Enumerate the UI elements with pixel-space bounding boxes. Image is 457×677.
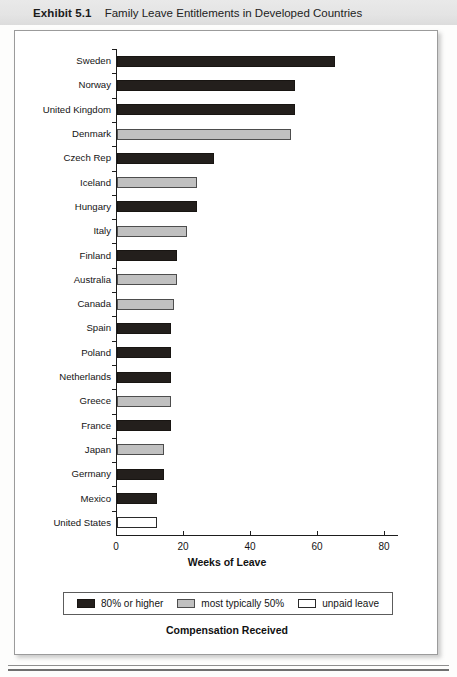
bar-mexico <box>117 493 157 504</box>
category-label: Germany <box>15 469 111 479</box>
legend-item-unpaid: unpaid leave <box>298 598 379 609</box>
x-tick-label: 60 <box>302 541 332 552</box>
category-label: Sweden <box>15 56 111 66</box>
x-tick-label: 40 <box>235 541 265 552</box>
x-tick-label: 0 <box>101 541 131 552</box>
x-axis-tick <box>183 531 184 535</box>
legend-swatch-mid <box>177 599 195 608</box>
category-label: Australia <box>15 275 111 285</box>
legend-item-high: 80% or higher <box>77 598 163 609</box>
legend-label: 80% or higher <box>101 598 163 609</box>
y-axis-tick <box>112 365 116 366</box>
category-label: Netherlands <box>15 372 111 382</box>
y-axis-tick <box>112 73 116 74</box>
bar-finland <box>117 250 177 261</box>
bar-poland <box>117 347 171 358</box>
category-label: United Kingdom <box>15 105 111 115</box>
page-rule-thin <box>8 665 449 666</box>
category-label: Mexico <box>15 494 111 504</box>
category-label: Iceland <box>15 178 111 188</box>
bar-norway <box>117 80 295 91</box>
legend-swatch-high <box>77 599 95 608</box>
category-label: Poland <box>15 348 111 358</box>
category-label: Finland <box>15 251 111 261</box>
y-axis-tick <box>112 268 116 269</box>
bar-germany <box>117 469 164 480</box>
legend-label: unpaid leave <box>322 598 379 609</box>
bar-hungary <box>117 201 197 212</box>
legend-item-mid: most typically 50% <box>177 598 284 609</box>
y-axis-tick <box>112 171 116 172</box>
bar-australia <box>117 274 177 285</box>
category-label: Czech Rep <box>15 153 111 163</box>
legend-swatch-unpaid <box>298 599 316 608</box>
bar-canada <box>117 299 174 310</box>
legend-label: most typically 50% <box>201 598 284 609</box>
category-label: France <box>15 421 111 431</box>
y-axis-tick <box>112 98 116 99</box>
x-axis-title: Weeks of Leave <box>15 556 439 568</box>
category-label: Norway <box>15 80 111 90</box>
y-axis-tick <box>112 414 116 415</box>
y-axis-tick <box>112 292 116 293</box>
bar-chart-plot: Weeks of Leave SwedenNorwayUnited Kingdo… <box>15 31 439 656</box>
category-label: Japan <box>15 445 111 455</box>
category-label: United States <box>15 518 111 528</box>
category-label: Canada <box>15 299 111 309</box>
bar-france <box>117 420 171 431</box>
bar-united-states <box>117 517 157 528</box>
bar-japan <box>117 444 164 455</box>
exhibit-number: Exhibit 5.1 <box>33 7 92 19</box>
exhibit-title: Family Leave Entitlements in Developed C… <box>105 7 363 19</box>
y-axis-tick <box>112 438 116 439</box>
figure-frame: Weeks of Leave SwedenNorwayUnited Kingdo… <box>14 30 438 655</box>
y-axis-tick <box>112 122 116 123</box>
x-axis-line <box>116 535 398 536</box>
y-axis-tick <box>112 462 116 463</box>
bar-czech-rep <box>117 153 214 164</box>
y-axis-tick <box>112 195 116 196</box>
page-rule-thick <box>8 669 449 671</box>
chart-legend: 80% or highermost typically 50%unpaid le… <box>63 592 393 615</box>
y-axis-tick <box>112 243 116 244</box>
category-label: Greece <box>15 396 111 406</box>
x-axis-tick <box>384 531 385 535</box>
y-axis-line <box>116 49 117 535</box>
bar-iceland <box>117 177 197 188</box>
x-tick-label: 80 <box>369 541 399 552</box>
category-label: Spain <box>15 323 111 333</box>
category-label: Italy <box>15 226 111 236</box>
bar-denmark <box>117 129 291 140</box>
y-axis-tick <box>112 486 116 487</box>
bar-united-kingdom <box>117 104 295 115</box>
y-axis-tick <box>112 341 116 342</box>
exhibit-page: Exhibit 5.1 Family Leave Entitlements in… <box>0 0 457 677</box>
category-label: Hungary <box>15 202 111 212</box>
category-label: Denmark <box>15 129 111 139</box>
y-axis-tick <box>112 316 116 317</box>
bar-spain <box>117 323 171 334</box>
x-axis-tick <box>116 531 117 535</box>
x-axis-tick <box>250 531 251 535</box>
x-axis-tick <box>317 531 318 535</box>
y-axis-tick <box>112 219 116 220</box>
y-axis-tick <box>112 511 116 512</box>
bar-netherlands <box>117 372 171 383</box>
x-tick-label: 20 <box>168 541 198 552</box>
exhibit-header: Exhibit 5.1 Family Leave Entitlements in… <box>0 0 457 25</box>
y-axis-tick <box>112 389 116 390</box>
bar-sweden <box>117 56 335 67</box>
y-axis-tick <box>112 49 116 50</box>
legend-caption: Compensation Received <box>15 624 439 636</box>
y-axis-tick <box>112 146 116 147</box>
bar-italy <box>117 226 187 237</box>
bar-greece <box>117 396 171 407</box>
